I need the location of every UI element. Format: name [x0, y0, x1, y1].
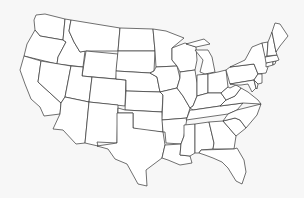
state-co: [89, 77, 126, 106]
us-map: [0, 0, 304, 198]
state-in: [197, 74, 208, 96]
state-sd: [116, 51, 155, 73]
state-ks: [125, 91, 163, 112]
state-nd: [118, 28, 155, 51]
state-wy: [82, 51, 118, 79]
state-nm: [85, 102, 118, 146]
